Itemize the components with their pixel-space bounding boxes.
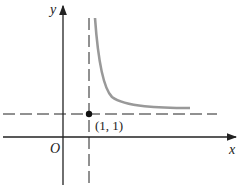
point-marker: [86, 111, 92, 117]
y-axis-label: y: [48, 2, 57, 17]
origin-label: O: [50, 141, 60, 156]
x-axis-label: x: [228, 142, 236, 157]
hyperbola-curve: [95, 18, 190, 108]
point-label: (1, 1): [95, 118, 123, 133]
hyperbola-diagram: (1, 1) y x O: [0, 0, 243, 190]
